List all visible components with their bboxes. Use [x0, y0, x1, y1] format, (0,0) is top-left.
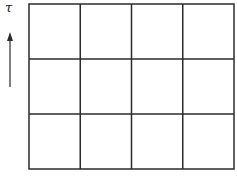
grid [29, 4, 234, 169]
diagram-canvas: τ [0, 0, 237, 183]
grid-diagram [0, 0, 237, 183]
up-arrow-icon [7, 32, 13, 87]
